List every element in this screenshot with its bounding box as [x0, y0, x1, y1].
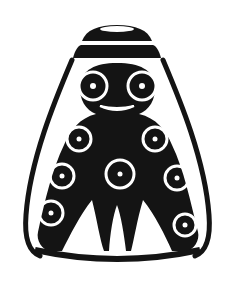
vessel-mouth: [100, 26, 134, 32]
vessel-base: [35, 250, 200, 259]
vessel-drawing: [0, 0, 233, 283]
vessel-band: [73, 45, 161, 58]
vessel-illustration: [0, 0, 233, 283]
